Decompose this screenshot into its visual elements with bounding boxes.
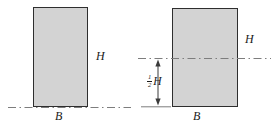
left-rectangle-section xyxy=(33,7,88,107)
fraction-denominator: 2 xyxy=(148,82,151,89)
right-width-label: B xyxy=(193,110,200,122)
arrowhead-down-icon xyxy=(155,99,160,106)
arrowhead-up-icon xyxy=(155,60,160,67)
right-rectangle-section xyxy=(172,8,238,107)
half-height-fraction: 1 2 xyxy=(147,74,152,89)
left-width-label: B xyxy=(55,110,62,122)
left-height-label: H xyxy=(96,50,105,62)
fraction-variable: H xyxy=(153,76,161,88)
right-height-label: H xyxy=(245,33,254,45)
figure-canvas: H B H B 1 2 H xyxy=(0,0,278,132)
half-height-label: 1 2 H xyxy=(147,74,162,89)
